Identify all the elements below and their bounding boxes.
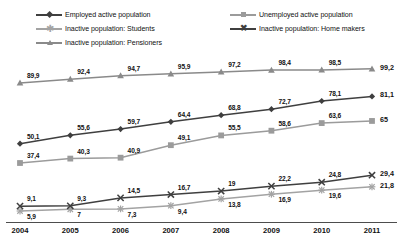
data-label: 24,8 (329, 171, 341, 178)
data-label: 16,7 (178, 184, 190, 191)
data-label: 14,5 (128, 187, 140, 194)
legend-label: Unemployed active population (259, 11, 353, 19)
plot-area: 50,155,659,764,468,872,778,181,137,440,3… (0, 52, 403, 224)
x-axis-line (6, 222, 397, 223)
data-label: 9,4 (178, 208, 187, 215)
data-label: 97,2 (228, 61, 240, 68)
data-label: 78,1 (329, 90, 341, 97)
data-label: 40,3 (77, 148, 89, 155)
data-label: 13,8 (228, 201, 240, 208)
series-canvas (0, 52, 403, 224)
line-chart: Employed active population ✱ Inactive po… (0, 0, 403, 243)
legend-item-inactive-pensioners[interactable]: Inactive population: Pensioners (36, 38, 162, 47)
series-unemployed-active-population (17, 118, 375, 166)
series-end-label: 81,1 (380, 91, 394, 99)
diamond-marker-icon (36, 10, 62, 19)
data-label: 22,2 (278, 175, 290, 182)
series-employed-active-population (17, 93, 375, 146)
data-label: 89,9 (27, 72, 39, 79)
data-label: 63,6 (329, 112, 341, 119)
x-tick-label: 2009 (263, 226, 280, 235)
data-label: 58,6 (278, 120, 290, 127)
data-label: 40,9 (128, 147, 140, 154)
data-label: 59,7 (128, 118, 140, 125)
asterisk-marker-icon: ✱ (36, 24, 62, 33)
series-end-label: 29,4 (380, 170, 394, 178)
data-label: 16,9 (278, 196, 290, 203)
data-label: 49,1 (178, 134, 190, 141)
chart-legend: Employed active population ✱ Inactive po… (0, 0, 403, 52)
x-axis: 20042005200620072008200920102011 (0, 222, 403, 243)
data-label: 5,9 (27, 213, 36, 220)
x-tick-label: 2004 (12, 226, 29, 235)
series-inactive-population-pensioners (17, 65, 376, 85)
data-label: 19,6 (329, 192, 341, 199)
legend-item-inactive-students[interactable]: ✱ Inactive population: Students (36, 24, 155, 33)
square-marker-icon (230, 10, 256, 19)
data-label: 92,4 (77, 68, 89, 75)
x-tick-label: 2005 (62, 226, 79, 235)
data-label: 68,8 (228, 104, 240, 111)
data-label: 7 (77, 211, 81, 218)
data-label: 55,5 (228, 124, 240, 131)
data-label: 50,1 (27, 133, 39, 140)
data-label: 98,4 (278, 59, 290, 66)
legend-label: Inactive population: Students (65, 25, 155, 33)
data-label: 94,7 (128, 65, 140, 72)
triangle-marker-icon (36, 38, 62, 47)
data-label: 9,1 (27, 195, 36, 202)
x-tick-label: 2006 (112, 226, 129, 235)
x-tick-label: 2007 (162, 226, 179, 235)
data-label: 37,4 (27, 152, 39, 159)
x-marker-icon: ✖ (230, 24, 256, 33)
series-end-label: 99,2 (380, 64, 394, 72)
legend-item-unemployed-active-population[interactable]: Unemployed active population (230, 10, 353, 19)
legend-label: Inactive population: Pensioners (65, 39, 162, 47)
data-label: 19 (228, 180, 235, 187)
x-tick-label: 2010 (313, 226, 330, 235)
x-tick-label: 2011 (364, 226, 380, 235)
series-end-label: 65 (380, 116, 388, 124)
legend-label: Inactive population: Home makers (259, 25, 365, 33)
data-label: 55,6 (77, 124, 89, 131)
series-inactive-population-students (17, 183, 376, 214)
data-label: 9,3 (77, 195, 86, 202)
data-label: 7,3 (128, 211, 137, 218)
x-tick-label: 2008 (213, 226, 230, 235)
data-label: 72,7 (278, 98, 290, 105)
series-end-label: 21,8 (380, 182, 394, 190)
legend-label: Employed active population (65, 11, 150, 19)
legend-item-employed-active-population[interactable]: Employed active population (36, 10, 150, 19)
data-label: 98,5 (329, 59, 341, 66)
data-label: 95,9 (178, 63, 190, 70)
legend-item-inactive-home-makers[interactable]: ✖ Inactive population: Home makers (230, 24, 365, 33)
data-label: 64,4 (178, 111, 190, 118)
